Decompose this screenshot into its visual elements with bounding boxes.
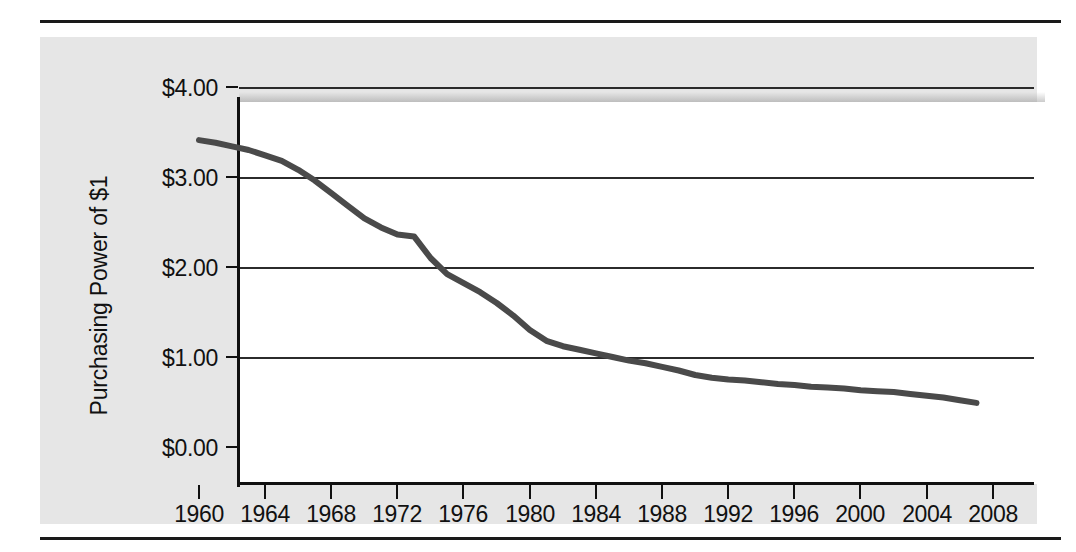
- y-tick-label-1: $1.00: [128, 345, 218, 372]
- y-tick-mark-2: [226, 266, 238, 268]
- x-tick-mark-1992: [727, 485, 729, 499]
- x-tick-mark-1988: [661, 485, 663, 499]
- gridline-2: [239, 267, 1034, 269]
- gridline-3: [239, 177, 1034, 179]
- gridline-1: [239, 357, 1034, 359]
- x-tick-label-1976: 1976: [438, 501, 488, 528]
- x-tick-mark-1980: [529, 485, 531, 499]
- x-tick-mark-1960: [198, 485, 200, 499]
- y-axis-line: [237, 97, 240, 487]
- y-tick-label-0: $0.00: [128, 435, 218, 462]
- x-tick-mark-1972: [396, 485, 398, 499]
- x-tick-mark-1996: [793, 485, 795, 499]
- x-tick-mark-1984: [595, 485, 597, 499]
- x-axis-line: [237, 482, 1034, 485]
- y-tick-mark-1: [226, 356, 238, 358]
- x-tick-mark-2004: [926, 485, 928, 499]
- page-rule-top: [40, 20, 1061, 23]
- y-tick-mark-3: [226, 176, 238, 178]
- x-tick-mark-1968: [330, 485, 332, 499]
- plot-canvas: [239, 102, 1045, 484]
- x-tick-label-1972: 1972: [372, 501, 422, 528]
- x-tick-label-1988: 1988: [637, 501, 687, 528]
- x-tick-mark-1964: [264, 485, 266, 499]
- y-tick-mark-0: [226, 446, 238, 448]
- x-tick-label-2004: 2004: [902, 501, 952, 528]
- x-tick-label-2008: 2008: [968, 501, 1018, 528]
- x-tick-label-1964: 1964: [240, 501, 290, 528]
- y-tick-label-3: $3.00: [128, 165, 218, 192]
- y-axis-title: Purchasing Power of $1: [86, 131, 113, 461]
- x-tick-label-1968: 1968: [306, 501, 356, 528]
- x-tick-mark-2008: [992, 485, 994, 499]
- x-tick-label-1992: 1992: [703, 501, 753, 528]
- x-tick-label-2000: 2000: [835, 501, 885, 528]
- x-tick-mark-1976: [462, 485, 464, 499]
- x-tick-label-1984: 1984: [571, 501, 621, 528]
- y-tick-label-2: $2.00: [128, 255, 218, 282]
- x-tick-label-1996: 1996: [769, 501, 819, 528]
- figure-panel: $4.00 $3.00 $2.00 $1.00 $0.00 Purchasing…: [40, 37, 1037, 524]
- x-tick-mark-2000: [859, 485, 861, 499]
- y-tick-label-4: $4.00: [128, 75, 218, 102]
- x-tick-label-1960: 1960: [174, 501, 224, 528]
- y-tick-mark-4: [226, 86, 238, 88]
- x-tick-label-1980: 1980: [505, 501, 555, 528]
- gridline-4: [239, 87, 1034, 89]
- page-rule-bottom: [40, 537, 1061, 540]
